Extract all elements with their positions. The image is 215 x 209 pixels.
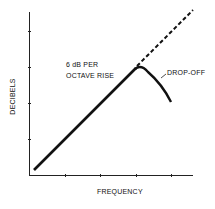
rise-line [34, 68, 136, 170]
x-axis-label: FREQUENCY [97, 187, 143, 196]
rise-annotation-line1: 6 dB PER [66, 60, 98, 69]
dropoff-annotation: DROP-OFF [167, 68, 205, 77]
y-axis-label: DECIBELS [8, 77, 17, 117]
dashed-continuation [137, 10, 193, 66]
chart-canvas [0, 0, 215, 209]
dropoff-leader [161, 74, 166, 78]
rise-annotation-line2: OCTAVE RISE [66, 71, 114, 80]
dropoff-curve [135, 67, 171, 102]
